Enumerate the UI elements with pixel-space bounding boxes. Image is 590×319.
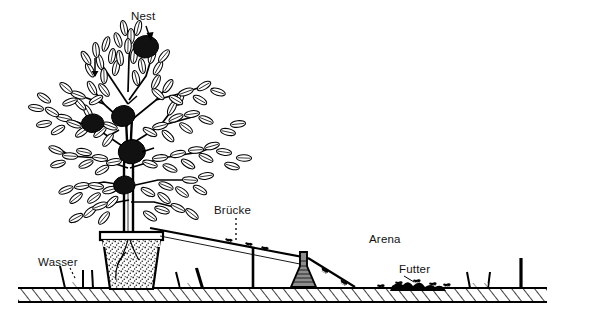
illustration-canvas: Nest Brücke Arena Futter Wasser (0, 0, 590, 319)
label-nest: Nest (131, 11, 155, 23)
scene-drawing (0, 0, 590, 319)
plant-pot (100, 232, 163, 289)
label-wasser: Wasser (38, 257, 78, 269)
flask (291, 252, 316, 287)
label-arena: Arena (369, 234, 401, 246)
label-bruecke: Brücke (214, 205, 251, 217)
label-futter: Futter (399, 264, 430, 276)
ground-band (18, 288, 547, 302)
